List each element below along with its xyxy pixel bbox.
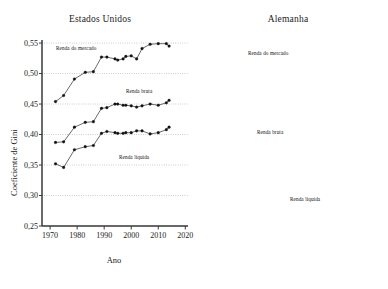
y-tick-label: 0,50 — [16, 69, 38, 78]
series-label-market-income-us: Renda do mercado — [56, 45, 97, 51]
series-label-gross-income-de: Renda bruta — [257, 129, 283, 135]
series-label-market-income-de: Renda do mercado — [248, 50, 289, 56]
gini-coefficient-figure: Estados Unidos Coeficiente de Gini Ano 0… — [0, 0, 388, 289]
plot-area-estados-unidos — [42, 40, 188, 226]
x-tick-label: 2010 — [144, 231, 172, 240]
series-label-net-income-de: Renda líquida — [290, 196, 320, 202]
panel-title-alemanha: Alemanha — [198, 14, 378, 24]
y-tick-label: 0,35 — [16, 161, 38, 170]
series-label-net-income-us: Renda líquida — [119, 154, 149, 160]
panel-estados-unidos: Estados Unidos Coeficiente de Gini Ano 0… — [0, 0, 194, 289]
y-tick-label: 0,40 — [16, 130, 38, 139]
panel-alemanha: Alemanha Coeficiente de Gini Ano 0,250,3… — [194, 0, 388, 289]
y-tick-label: 0,30 — [16, 191, 38, 200]
series-label-gross-income-us: Renda bruta — [126, 88, 152, 94]
x-tick-label: 1970 — [36, 231, 64, 240]
y-tick-label: 0,45 — [16, 100, 38, 109]
x-tick-label: 1990 — [90, 231, 118, 240]
y-tick-label: 0,25 — [16, 222, 38, 231]
x-axis-label-estados-unidos: Ano — [40, 255, 188, 265]
x-tick-label: 2000 — [117, 231, 145, 240]
y-tick-label: 0,55 — [16, 39, 38, 48]
x-tick-label: 1980 — [63, 231, 91, 240]
panel-title-estados-unidos: Estados Unidos — [10, 14, 190, 24]
